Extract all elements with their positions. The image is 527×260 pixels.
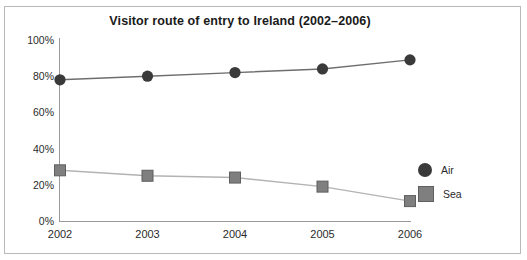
legend-item-sea: Sea [418,182,508,206]
series-sea [55,165,416,207]
data-point-sea-2004 [230,172,241,183]
legend-label: Air [441,164,454,176]
data-point-sea-2003 [142,170,153,181]
data-point-air-2004 [229,67,240,78]
data-point-air-2005 [317,63,328,74]
legend-swatch-circle-icon [418,163,432,177]
legend-label: Sea [443,188,462,200]
data-point-sea-2002 [55,165,66,176]
data-point-air-2006 [404,54,415,65]
data-point-sea-2005 [317,181,328,192]
chart-legend: AirSea [418,158,508,206]
legend-item-air: Air [418,158,508,182]
chart-figure: Visitor route of entry to Ireland (2002–… [0,0,527,260]
series-air [54,54,415,85]
legend-swatch-square-icon [418,186,434,202]
data-point-air-2002 [54,74,65,85]
data-point-air-2003 [142,71,153,82]
data-point-sea-2006 [405,196,416,207]
chart-plot-series [0,0,527,260]
